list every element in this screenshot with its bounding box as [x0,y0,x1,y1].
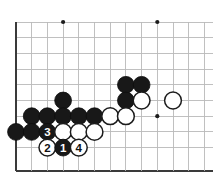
stone-black [70,108,87,125]
stone-body [133,76,150,93]
stone-body [118,76,135,93]
stone-white [86,123,103,140]
go-board-diagram: 3214 [0,0,213,186]
stone-black [23,123,40,140]
stone-black [118,76,135,93]
stone-black [39,108,56,125]
stone-body [118,108,135,125]
stone-black [118,92,135,109]
move-number-label: 2 [44,142,50,154]
stone-body [118,92,135,109]
stone-body [55,92,72,109]
stone-black [86,108,103,125]
stone-black [133,76,150,93]
star-point [155,114,159,118]
stone-body [70,108,87,125]
stone-black-move-3: 3 [39,123,56,140]
move-number-label: 1 [60,142,67,154]
stone-body [133,92,150,109]
stone-body [39,108,56,125]
star-point [61,20,65,24]
stone-black-move-1: 1 [55,139,72,156]
stone-body [8,123,25,140]
stone-white [165,92,182,109]
stone-body [102,108,119,125]
stone-white [118,108,135,125]
move-number-label: 4 [76,142,83,154]
stone-body [86,108,103,125]
stone-white-move-4: 4 [70,139,87,156]
move-number-label: 3 [44,126,50,138]
stone-body [165,92,182,109]
stone-black [55,108,72,125]
stone-body [23,108,40,125]
stone-black [55,92,72,109]
stone-body [55,123,72,140]
stone-body [23,123,40,140]
stone-body [86,123,103,140]
stone-body [55,108,72,125]
stone-white [55,123,72,140]
goban-canvas: 3214 [0,0,213,186]
stone-white-move-2: 2 [39,139,56,156]
stone-white [133,92,150,109]
stone-body [70,123,87,140]
stone-black [23,108,40,125]
stone-white [102,108,119,125]
stone-white [70,123,87,140]
stone-black [8,123,25,140]
star-point [155,20,159,24]
